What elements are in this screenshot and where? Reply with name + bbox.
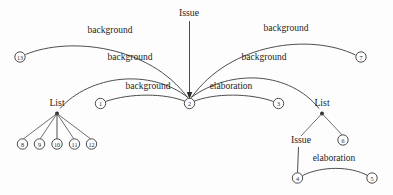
node-n9[interactable]: 9 <box>34 139 44 149</box>
node-label-n13: 13 <box>17 54 23 61</box>
relation-label-elaboration-bottom-right: elaboration <box>313 153 356 163</box>
node-n8[interactable]: 8 <box>17 139 27 149</box>
node-n12[interactable]: 12 <box>86 139 96 149</box>
relation-label-elaboration-inner-right: elaboration <box>210 81 253 91</box>
node-label-n5: 5 <box>370 175 373 182</box>
diagram-canvas: 1 2 3 4 5 6 7 8 <box>0 0 393 195</box>
node-n2[interactable]: 2 <box>184 98 194 108</box>
relation-label-background-mid-left: background <box>108 52 153 62</box>
node-n10[interactable]: 10 <box>52 139 62 149</box>
node-label-n3: 3 <box>277 100 280 107</box>
node-n11[interactable]: 11 <box>69 139 79 149</box>
arc-background-inner-left <box>106 95 186 101</box>
left-list-subtree <box>24 112 91 139</box>
schema-label-right-list: List <box>314 97 330 108</box>
relation-label-background-mid-right: background <box>242 52 287 62</box>
node-n3[interactable]: 3 <box>273 98 283 108</box>
node-label-n7: 7 <box>359 54 362 61</box>
edge-right-issue-to-n4 <box>298 147 299 173</box>
schema-label-top-issue: Issue <box>179 7 200 18</box>
edge-top-issue-to-n2 <box>187 21 192 100</box>
node-n4[interactable]: 4 <box>292 173 302 183</box>
relation-label-background-outer-right: background <box>264 23 309 33</box>
arc-elaboration-inner-right <box>194 95 274 101</box>
node-label-n4: 4 <box>296 175 299 182</box>
node-n1[interactable]: 1 <box>95 98 105 108</box>
schema-label-left-list: List <box>49 97 65 108</box>
discourse-tree-diagram: 1 2 3 4 5 6 7 8 <box>0 0 393 195</box>
node-n13[interactable]: 13 <box>15 52 25 62</box>
node-label-n9: 9 <box>38 141 41 148</box>
node-n5[interactable]: 5 <box>367 173 377 183</box>
relation-label-background-inner-left: background <box>126 81 171 91</box>
node-label-n11: 11 <box>72 141 78 148</box>
right-list-subtree <box>301 112 342 136</box>
node-label-n2: 2 <box>188 100 191 107</box>
node-n7[interactable]: 7 <box>356 52 366 62</box>
node-label-n6: 6 <box>341 137 344 144</box>
node-label-n1: 1 <box>99 100 102 107</box>
node-label-n8: 8 <box>21 141 24 148</box>
arc-elaboration-bottom-right <box>303 168 368 175</box>
schema-label-right-issue: Issue <box>291 134 312 145</box>
node-label-n12: 12 <box>88 141 94 148</box>
relation-label-background-outer-left: background <box>88 25 133 35</box>
node-n6[interactable]: 6 <box>338 135 348 145</box>
node-label-n10: 10 <box>54 141 60 148</box>
